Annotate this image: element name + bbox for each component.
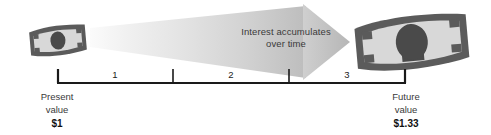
arrow-caption: Interest accumulates over time — [206, 26, 366, 50]
banknote-small-icon — [24, 20, 92, 62]
arrow-caption-line-1: Interest accumulates — [206, 26, 366, 38]
present-value-title-line-1: Present — [41, 91, 74, 102]
interval-label-2: 2 — [216, 69, 246, 80]
future-value-label: Future value $1.33 — [351, 91, 461, 131]
future-value-amount: $1.33 — [351, 118, 461, 131]
present-value-title-line-2: value — [46, 104, 69, 115]
present-value-amount: $1 — [2, 118, 112, 131]
future-value-title-line-2: value — [395, 104, 418, 115]
interval-label-1: 1 — [100, 69, 130, 80]
future-value-title-line-1: Future — [392, 91, 419, 102]
interval-label-3: 3 — [332, 69, 362, 80]
arrow-caption-line-2: over time — [206, 38, 366, 50]
present-value-label: Present value $1 — [2, 91, 112, 131]
time-value-of-money-figure: Interest accumulates over time — [0, 0, 491, 135]
